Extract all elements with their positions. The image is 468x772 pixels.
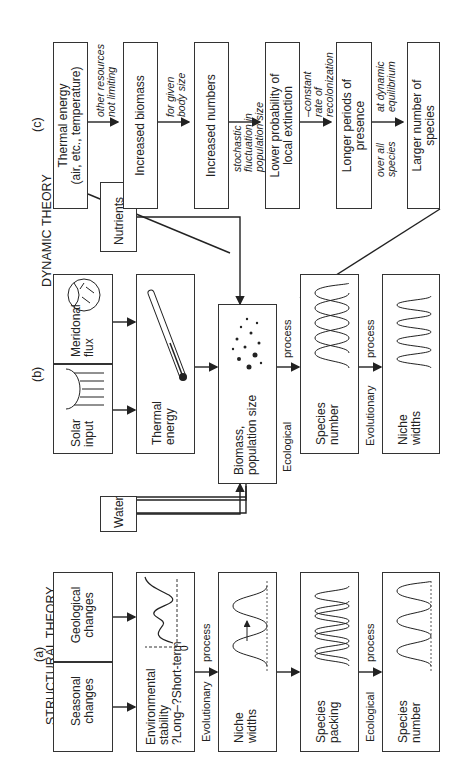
rotated-figure: (a) STRUCTURAL THEORY (b) DYNAMIC THEORY… (0, 0, 468, 772)
feeder-lines (0, 0, 468, 772)
